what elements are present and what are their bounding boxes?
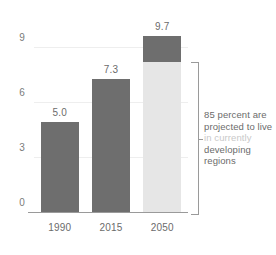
bar-chart: 0369 5.019907.320159.72050 85 percent ar… (0, 0, 276, 255)
x-axis-tick-label: 2015 (99, 222, 122, 233)
annotation-line: 85 percent are (204, 109, 274, 121)
bar-value-label: 9.7 (155, 21, 170, 32)
annotation-line: projected to live (204, 121, 274, 133)
bar-value-label: 7.3 (104, 64, 119, 75)
plot-area: 0369 5.019907.320159.72050 (34, 30, 188, 213)
y-axis-tick-label: 3 (19, 142, 25, 153)
annotation-line: developing (204, 144, 274, 156)
bar-1990: 5.01990 (41, 122, 79, 214)
x-axis-tick-label: 2050 (151, 222, 174, 233)
bar-segment-dark (143, 36, 181, 63)
annotation-bracket (191, 62, 199, 215)
bar-segment-light (143, 62, 181, 213)
annotation-line: regions (204, 155, 274, 167)
annotation-line: in currently (204, 132, 274, 144)
x-axis-line (28, 212, 188, 213)
bar-segment-dark (41, 122, 79, 214)
bar-2050: 9.72050 (143, 36, 181, 214)
bar-segment-dark (92, 79, 130, 213)
annotation-text: 85 percent areprojected to livein curren… (204, 109, 274, 167)
y-axis-tick-label: 0 (19, 197, 25, 208)
x-axis-tick-label: 1990 (48, 222, 71, 233)
bar-value-label: 5.0 (52, 107, 67, 118)
bar-2015: 7.32015 (92, 79, 130, 213)
y-axis-tick-label: 9 (19, 32, 25, 43)
y-axis-tick-label: 6 (19, 87, 25, 98)
annotation-bracket-tick (198, 139, 203, 140)
